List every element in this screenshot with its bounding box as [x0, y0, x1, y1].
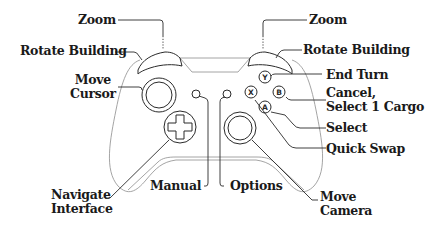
label-zoom-left: Zoom — [78, 13, 116, 27]
leader-zoom-right — [263, 20, 307, 36]
controller-top-bridge — [180, 58, 250, 72]
leader-options — [220, 97, 225, 186]
b-button[interactable]: B — [273, 86, 285, 98]
svg-text:Y: Y — [261, 73, 268, 82]
label-move-cursor-line1: Move — [70, 73, 116, 87]
label-move-camera-line2: Camera — [320, 204, 372, 218]
label-navigate-line1: Navigate — [51, 188, 113, 202]
label-rotate-right: Rotate Building — [303, 43, 410, 57]
left-stick[interactable] — [142, 78, 176, 112]
label-select: Select — [326, 121, 367, 135]
x-button[interactable]: X — [245, 86, 257, 98]
label-cancel: Cancel, Select 1 Cargo — [326, 86, 424, 114]
right-stick[interactable] — [224, 112, 256, 144]
controller-body-outline — [109, 60, 322, 192]
label-move-cursor-line2: Cursor — [70, 87, 116, 101]
leader-cancel — [286, 97, 326, 100]
svg-text:B: B — [276, 88, 282, 97]
left-bumper[interactable] — [138, 52, 182, 74]
right-bumper[interactable] — [248, 52, 292, 74]
dpad[interactable] — [164, 111, 196, 143]
label-navigate-line2: Interface — [51, 202, 113, 216]
label-zoom-right: Zoom — [309, 13, 347, 27]
label-cancel-line2: Select 1 Cargo — [326, 100, 424, 114]
label-move-camera: Move Camera — [320, 190, 372, 218]
label-end-turn: End Turn — [326, 68, 388, 82]
leader-zoom-left — [118, 20, 163, 36]
view-button[interactable] — [192, 90, 200, 98]
label-move-cursor: Move Cursor — [70, 73, 116, 101]
label-navigate: Navigate Interface — [51, 188, 113, 216]
leader-end-turn — [271, 74, 322, 76]
label-options: Options — [230, 179, 283, 193]
label-move-camera-line1: Move — [320, 190, 372, 204]
label-rotate-left: Rotate Building — [20, 44, 127, 58]
leader-manual — [199, 96, 208, 186]
label-manual: Manual — [150, 179, 201, 193]
leader-move-cursor — [118, 87, 142, 90]
label-quick-swap: Quick Swap — [326, 142, 405, 156]
y-button[interactable]: Y — [259, 71, 271, 83]
label-cancel-line1: Cancel, — [326, 86, 424, 100]
svg-text:X: X — [248, 88, 254, 97]
